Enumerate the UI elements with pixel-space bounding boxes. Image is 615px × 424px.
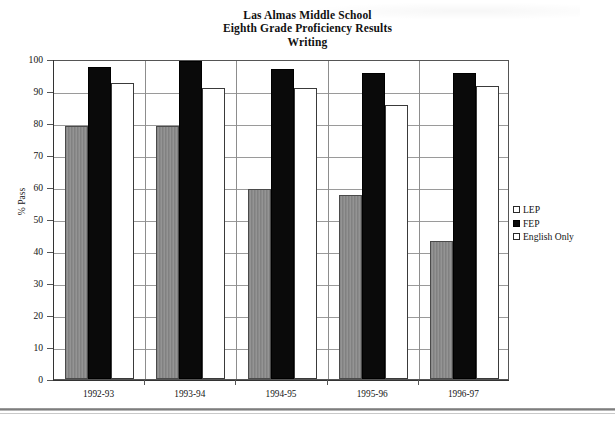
bar-fep-1994-95 — [271, 69, 294, 379]
x-axis-label-1996-97: 1996-97 — [421, 389, 505, 400]
bar-fep-1995-96 — [362, 73, 385, 379]
bar-english-only-1992-93 — [111, 83, 134, 379]
bar-english-only-1993-94 — [202, 88, 225, 379]
y-axis-title: % Pass — [16, 174, 27, 230]
chart-page: Las Almas Middle School Eighth Grade Pro… — [0, 0, 615, 424]
bar-fep-1992-93 — [88, 67, 111, 379]
x-axis-tick — [327, 380, 328, 385]
x-axis-tick — [235, 380, 236, 385]
page-horizontal-rule-secondary — [0, 413, 615, 414]
bar-lep-1994-95 — [248, 189, 271, 379]
x-axis-tick — [144, 380, 145, 385]
bar-fep-1996-97 — [453, 73, 476, 379]
page-horizontal-rule — [0, 408, 615, 411]
x-axis-label-1993-94: 1993-94 — [148, 389, 232, 400]
legend-item-lep: LEP — [513, 203, 574, 217]
bar-fep-1993-94 — [179, 61, 202, 379]
legend-swatch-lep-icon — [513, 206, 520, 213]
chart-legend: LEP FEP English Only — [513, 203, 574, 244]
legend-label-english-only: English Only — [523, 230, 574, 244]
legend-item-english-only: English Only — [513, 230, 574, 244]
x-axis-label-1995-96: 1995-96 — [330, 389, 414, 400]
legend-label-fep: FEP — [523, 217, 540, 231]
x-axis-tick — [418, 380, 419, 385]
bar-english-only-1996-97 — [476, 86, 499, 379]
bar-lep-1995-96 — [339, 195, 362, 379]
bar-lep-1993-94 — [156, 126, 179, 379]
bar-english-only-1994-95 — [294, 88, 317, 379]
legend-label-lep: LEP — [523, 203, 540, 217]
x-axis-label-1992-93: 1992-93 — [57, 389, 141, 400]
bar-lep-1992-93 — [65, 126, 88, 379]
legend-swatch-fep-icon — [513, 220, 520, 227]
x-axis-label-1994-95: 1994-95 — [239, 389, 323, 400]
bar-lep-1996-97 — [430, 241, 453, 379]
legend-item-fep: FEP — [513, 217, 574, 231]
legend-swatch-english-only-icon — [513, 233, 520, 240]
bar-english-only-1995-96 — [385, 105, 408, 379]
